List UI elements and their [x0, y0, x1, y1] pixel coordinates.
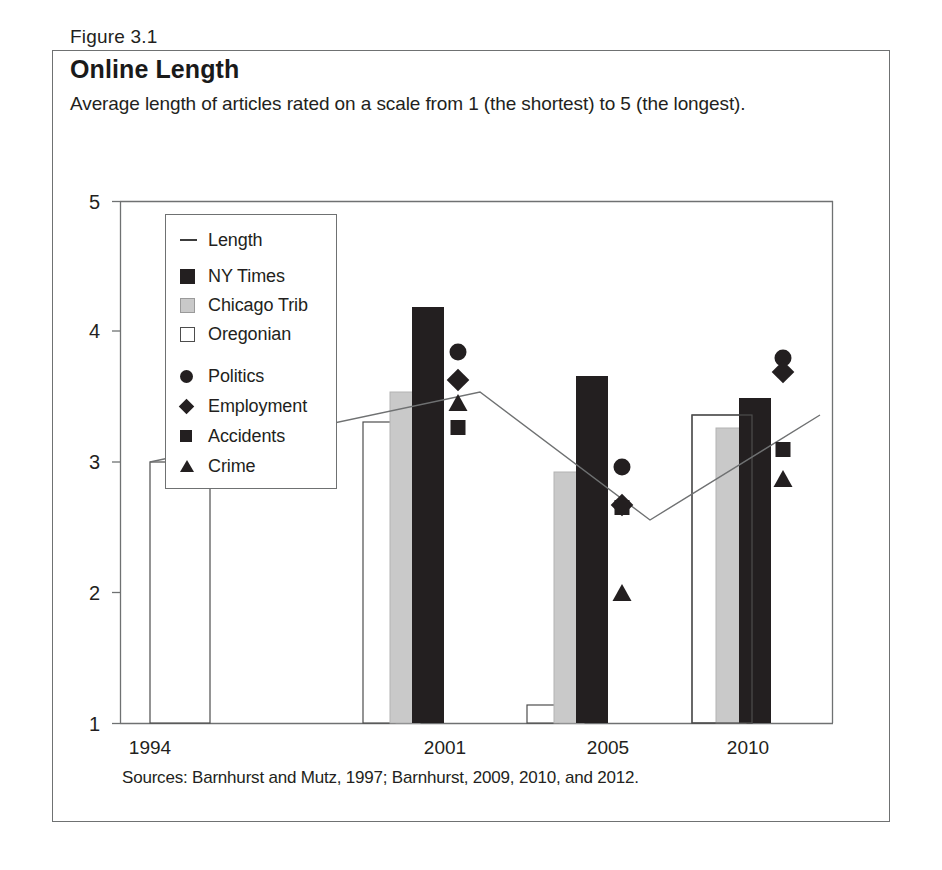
- y-tick-label-5: 5: [72, 192, 100, 212]
- y-tick-label-4: 4: [72, 321, 100, 341]
- y-tick-label-1: 1: [72, 714, 100, 734]
- legend-item-employment: Employment: [180, 395, 307, 417]
- chart-legend: Length NY Times Chicago Trib Oregonian P…: [165, 214, 337, 489]
- figure-subtitle: Average length of articles rated on a sc…: [70, 92, 810, 117]
- legend-label-ny-times: NY Times: [208, 266, 285, 287]
- gray-square-icon: [180, 298, 208, 313]
- legend-item-length: Length: [180, 229, 262, 251]
- x-tick-label-1994: 1994: [110, 738, 190, 757]
- legend-item-chicago-trib: Chicago Trib: [180, 294, 308, 316]
- circle-icon: [180, 370, 208, 383]
- line-icon: [180, 239, 208, 241]
- figure-number: Figure 3.1: [70, 25, 810, 49]
- legend-item-crime: Crime: [180, 455, 256, 477]
- legend-item-accidents: Accidents: [180, 425, 285, 447]
- figure-header: Figure 3.1 Online Length Average length …: [70, 25, 810, 116]
- legend-label-crime: Crime: [208, 456, 256, 477]
- source-note: Sources: Barnhurst and Mutz, 1997; Barnh…: [122, 768, 639, 788]
- x-tick-label-2010: 2010: [708, 738, 788, 757]
- legend-label-politics: Politics: [208, 366, 264, 387]
- figure-title: Online Length: [70, 54, 810, 84]
- diamond-icon: [180, 401, 208, 412]
- legend-label-length: Length: [208, 230, 262, 251]
- triangle-icon: [180, 460, 208, 472]
- white-square-icon: [180, 327, 208, 342]
- x-tick-label-2001: 2001: [405, 738, 485, 757]
- y-tick-label-3: 3: [72, 452, 100, 472]
- legend-label-oregonian: Oregonian: [208, 324, 291, 345]
- legend-item-oregonian: Oregonian: [180, 323, 291, 345]
- legend-label-employment: Employment: [208, 396, 307, 417]
- y-tick-label-2: 2: [72, 583, 100, 603]
- square-icon: [180, 430, 208, 442]
- x-tick-label-2005: 2005: [568, 738, 648, 757]
- legend-label-chicago-trib: Chicago Trib: [208, 295, 308, 316]
- legend-item-ny-times: NY Times: [180, 265, 285, 287]
- black-square-icon: [180, 269, 208, 284]
- legend-item-politics: Politics: [180, 365, 264, 387]
- legend-label-accidents: Accidents: [208, 426, 285, 447]
